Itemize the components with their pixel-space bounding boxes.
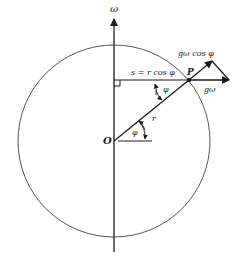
vector-label-g-omega-cos: gω cos φ [178,49,214,58]
radius-label: r [152,114,157,123]
component-closing-line [212,61,229,80]
vector-label-g-omega: gω [204,85,216,94]
point-p-label: P [186,67,194,77]
distance-label-s: s = r cos φ [131,68,175,77]
angle-label-top: φ [163,85,169,94]
radius-line [114,80,189,141]
angle-label-bottom: φ [132,128,138,137]
origin-label: O [103,135,112,146]
rotating-earth-diagram: ω O P r φ φ s = r cos φ gω gω cos φ [0,0,246,268]
angle-arc-top [155,84,156,95]
point-p [187,78,191,82]
axis-label-omega: ω [110,3,118,14]
right-angle-marker [114,80,120,86]
